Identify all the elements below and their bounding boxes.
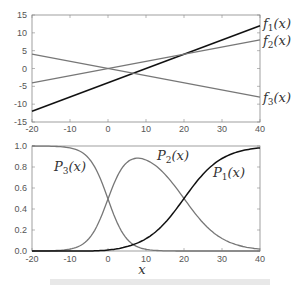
label-p1: P1(x) (212, 165, 245, 182)
x-tick-label: -10 (63, 124, 76, 134)
x-tick-label: -20 (25, 124, 38, 134)
curve-P1(x) (32, 148, 260, 251)
y-tick-label: -5 (19, 81, 27, 91)
x-tick-label: 40 (255, 124, 265, 134)
x-tick-label: 30 (217, 124, 227, 134)
y-tick-label: 0.2 (14, 225, 27, 235)
top-plot-ticks: -15-10-5051015-20-10010203040 (14, 10, 265, 134)
y-tick-label: 15 (17, 10, 27, 20)
figure: -15-10-5051015-20-10010203040 f1(x) f2(x… (0, 0, 304, 287)
x-tick-label: 0 (105, 254, 110, 264)
y-tick-label: 0 (22, 64, 27, 74)
bottom-plot-lines (32, 146, 260, 251)
line-f3(x) (32, 54, 260, 97)
label-f3: f3(x) (262, 90, 291, 107)
line-f1(x) (32, 26, 260, 112)
y-tick-label: 1.0 (14, 141, 27, 151)
x-tick-label: 20 (179, 254, 189, 264)
y-tick-label: 0.8 (14, 162, 27, 172)
y-tick-label: 5 (22, 46, 27, 56)
label-f2: f2(x) (262, 33, 291, 50)
top-plot-linear-functions: -15-10-5051015-20-10010203040 f1(x) f2(x… (14, 10, 291, 134)
bottom-plot-frame (32, 146, 260, 251)
x-tick-label: -20 (25, 254, 38, 264)
x-tick-label: 40 (255, 254, 265, 264)
y-tick-label: 10 (17, 28, 27, 38)
label-p3: P3(x) (53, 159, 86, 176)
label-f1: f1(x) (262, 16, 291, 33)
y-tick-label: 0.6 (14, 183, 27, 193)
x-tick-label: 30 (217, 254, 227, 264)
curve-P3(x) (32, 146, 260, 251)
x-tick-label: 0 (105, 124, 110, 134)
y-tick-label: 0.4 (14, 204, 27, 214)
x-axis-label: x (138, 262, 146, 277)
bottom-plot-ticks: 0.00.20.40.60.81.0-20-10010203040 (14, 141, 265, 264)
x-tick-label: 10 (141, 124, 151, 134)
x-tick-label: 20 (179, 124, 189, 134)
bottom-plot-probabilities: 0.00.20.40.60.81.0-20-10010203040 P3(x) … (14, 141, 265, 277)
top-plot-lines (32, 26, 260, 112)
caption-illegible (50, 279, 270, 285)
label-p2: P2(x) (156, 148, 189, 165)
y-tick-label: -10 (14, 99, 27, 109)
x-tick-label: -10 (63, 254, 76, 264)
line-f2(x) (32, 40, 260, 83)
